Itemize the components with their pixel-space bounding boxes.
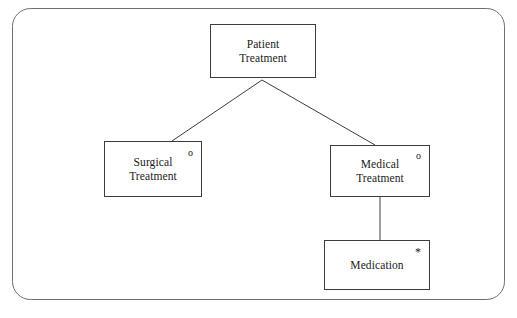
node-label-line: Patient xyxy=(247,37,280,52)
node-medication[interactable]: * Medication xyxy=(324,240,430,290)
diagram-canvas: Patient Treatment o Surgical Treatment o… xyxy=(0,0,517,318)
node-label-line: Medical xyxy=(361,157,399,172)
optional-marker-surgical: o xyxy=(188,148,193,158)
node-label-line: Treatment xyxy=(239,51,287,66)
optional-marker-medical: o xyxy=(416,151,421,161)
node-label-line: Treatment xyxy=(129,169,177,184)
node-label-line: Surgical xyxy=(134,155,173,170)
node-label-line: Medication xyxy=(350,258,403,273)
node-surgical-treatment[interactable]: o Surgical Treatment xyxy=(104,141,202,197)
node-patient-treatment[interactable]: Patient Treatment xyxy=(210,24,316,78)
node-label-line: Treatment xyxy=(356,171,404,186)
node-medical-treatment[interactable]: o Medical Treatment xyxy=(330,145,430,197)
multiplicity-marker-medication: * xyxy=(415,247,421,257)
